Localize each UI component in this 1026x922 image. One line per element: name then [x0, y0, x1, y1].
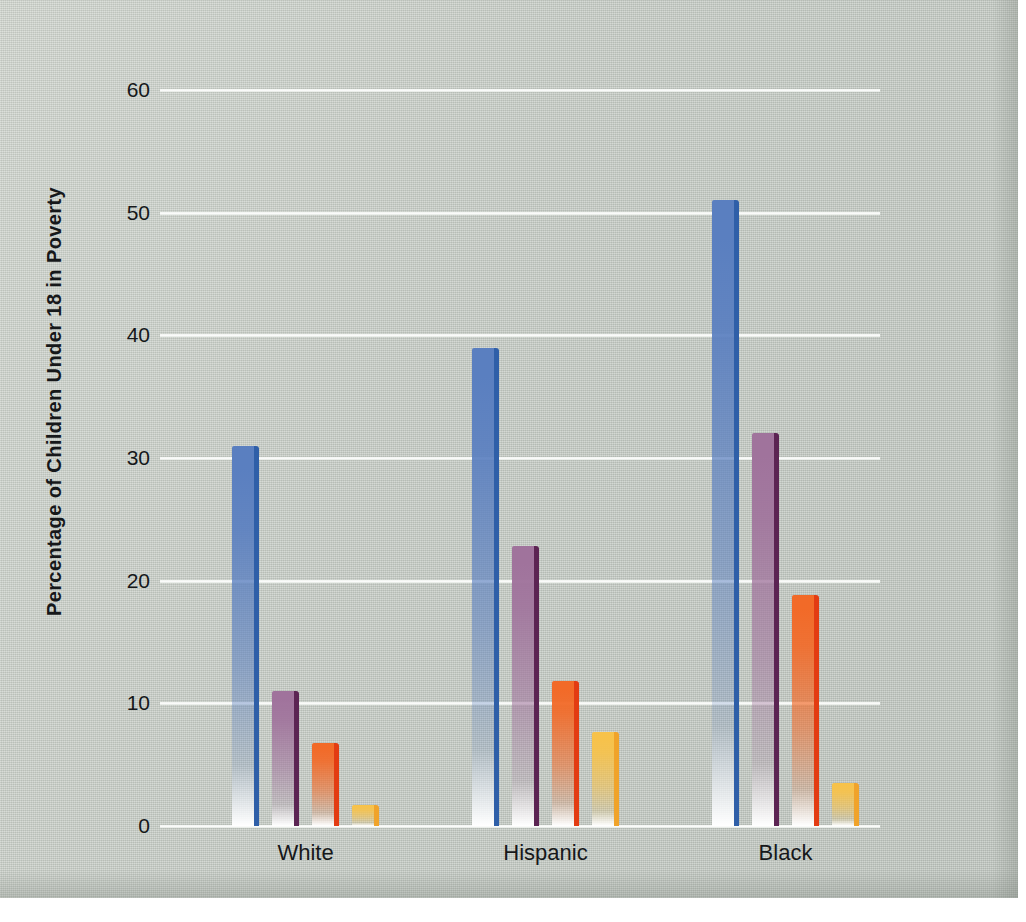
bar-face — [552, 681, 574, 826]
bar-face — [592, 732, 614, 826]
x-label-white: White — [277, 840, 333, 866]
x-axis-category-labels: WhiteHispanicBlack — [160, 840, 880, 880]
bar-black-series-3[interactable] — [792, 595, 819, 826]
bar-black-series-1[interactable] — [712, 200, 739, 826]
bar-black-series-4[interactable] — [832, 783, 859, 826]
bar-edge-highlight — [294, 695, 299, 826]
y-axis-title: Percentage of Children Under 18 in Pover… — [43, 122, 66, 682]
plate-bottom-margin — [0, 898, 1026, 922]
bar-top-cap — [814, 595, 819, 600]
bar-edge-highlight — [574, 685, 579, 826]
chart-root: Percentage of Children Under 18 in Pover… — [0, 0, 1026, 922]
bar-face — [792, 595, 814, 826]
y-tick-label-0: 0 — [138, 815, 150, 836]
bar-face — [472, 348, 494, 826]
gridline-50 — [160, 212, 880, 215]
bar-top-cap — [374, 805, 379, 810]
bar-black-series-2[interactable] — [752, 433, 779, 826]
bar-edge-highlight — [534, 550, 539, 826]
bar-face — [712, 200, 734, 826]
bar-hispanic-series-4[interactable] — [592, 732, 619, 826]
plate-right-shadow — [992, 0, 1018, 898]
bar-white-series-4[interactable] — [352, 805, 379, 826]
bar-edge-highlight — [254, 450, 259, 826]
bar-edge-highlight — [854, 787, 859, 826]
y-tick-label-30: 30 — [127, 447, 150, 468]
bar-top-cap — [574, 681, 579, 686]
y-axis-tick-labels: 0102030405060 — [96, 90, 150, 826]
y-tick-label-20: 20 — [127, 570, 150, 591]
bar-white-series-1[interactable] — [232, 446, 259, 826]
bar-edge-highlight — [374, 809, 379, 826]
bar-top-cap — [334, 743, 339, 748]
y-tick-label-60: 60 — [127, 79, 150, 100]
x-label-black: Black — [759, 840, 813, 866]
bar-hispanic-series-2[interactable] — [512, 546, 539, 826]
bar-hispanic-series-3[interactable] — [552, 681, 579, 826]
bar-edge-highlight — [614, 736, 619, 826]
plate-right-margin — [1018, 0, 1026, 922]
bar-face — [352, 805, 374, 826]
y-tick-label-40: 40 — [127, 324, 150, 345]
bar-white-series-3[interactable] — [312, 743, 339, 826]
bar-top-cap — [734, 200, 739, 205]
bar-face — [272, 691, 294, 826]
bar-face — [512, 546, 534, 826]
plot-area — [160, 90, 880, 826]
bar-top-cap — [854, 783, 859, 788]
y-tick-label-50: 50 — [127, 202, 150, 223]
bar-top-cap — [534, 546, 539, 551]
bar-edge-highlight — [734, 204, 739, 826]
bar-hispanic-series-1[interactable] — [472, 348, 499, 826]
gridline-40 — [160, 334, 880, 337]
bar-white-series-2[interactable] — [272, 691, 299, 826]
bar-edge-highlight — [814, 599, 819, 826]
bar-face — [752, 433, 774, 826]
gridline-60 — [160, 89, 880, 92]
bar-top-cap — [494, 348, 499, 353]
bar-edge-highlight — [494, 352, 499, 826]
bar-face — [312, 743, 334, 826]
bar-top-cap — [614, 732, 619, 737]
y-tick-label-10: 10 — [127, 692, 150, 713]
bar-edge-highlight — [334, 747, 339, 826]
bar-top-cap — [774, 433, 779, 438]
bar-face — [832, 783, 854, 826]
bar-top-cap — [294, 691, 299, 696]
x-label-hispanic: Hispanic — [503, 840, 587, 866]
bar-top-cap — [254, 446, 259, 451]
bar-face — [232, 446, 254, 826]
bar-edge-highlight — [774, 437, 779, 826]
